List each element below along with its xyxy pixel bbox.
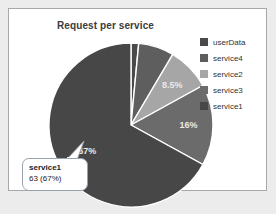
legend-item-service1[interactable]: service1 <box>200 100 270 112</box>
legend-item-service2[interactable]: service2 <box>200 68 270 80</box>
legend-item-label: service3 <box>213 86 243 95</box>
tooltip-title: service1 <box>29 162 87 173</box>
legend-swatch-service3 <box>200 86 208 94</box>
tooltip-callout[interactable]: service1 63 (67%) <box>22 158 88 191</box>
legend-swatch-userdata <box>200 38 208 46</box>
chart-title: Request per service <box>57 20 154 31</box>
pie-slice-label-service2: 8.5% <box>162 80 183 90</box>
legend-item-userdata[interactable]: userData <box>200 36 270 48</box>
legend-item-service4[interactable]: service4 <box>200 52 270 64</box>
legend-item-label: service4 <box>213 54 243 63</box>
legend-item-service3[interactable]: service3 <box>200 84 270 96</box>
legend-swatch-service2 <box>200 70 208 78</box>
legend-item-label: service2 <box>213 70 243 79</box>
pie-slice-label-service3: 16% <box>179 120 197 130</box>
tooltip-value: 63 (67%) <box>29 173 87 184</box>
legend: userDataservice4service2service3service1 <box>200 36 270 116</box>
legend-swatch-service1 <box>200 102 208 110</box>
legend-item-label: service1 <box>213 102 243 111</box>
legend-item-label: userData <box>213 38 245 47</box>
legend-swatch-service4 <box>200 54 208 62</box>
